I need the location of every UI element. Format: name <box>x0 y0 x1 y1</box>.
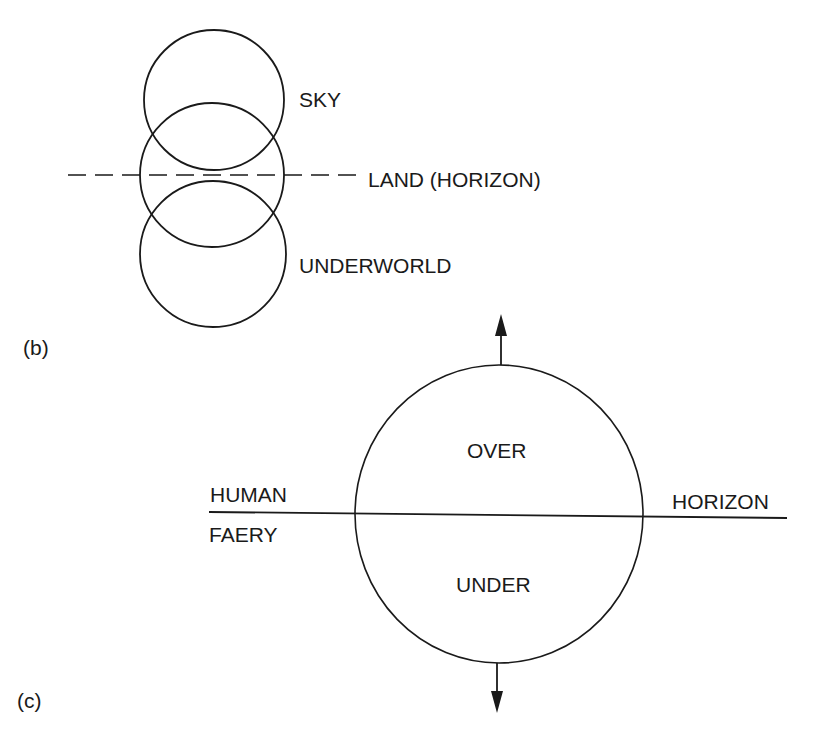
land-horizon-label: LAND (HORIZON) <box>368 168 541 191</box>
up-arrow-icon <box>495 314 507 336</box>
underworld-label: UNDERWORLD <box>299 254 451 277</box>
underworld-circle <box>140 181 286 327</box>
human-label: HUMAN <box>210 483 287 506</box>
sky-label: SKY <box>299 88 341 111</box>
sky-circle <box>144 30 284 170</box>
panel-b: SKY LAND (HORIZON) UNDERWORLD (b) <box>23 30 541 359</box>
diagram-canvas: SKY LAND (HORIZON) UNDERWORLD (b) OVER U… <box>0 0 814 733</box>
panel-c: OVER UNDER HUMAN FAERY HORIZON (c) <box>17 314 787 713</box>
faery-label: FAERY <box>209 523 277 546</box>
over-label: OVER <box>467 439 527 462</box>
panel-b-label: (b) <box>23 336 49 359</box>
horizon-label: HORIZON <box>672 490 769 513</box>
down-arrow-icon <box>491 691 503 713</box>
panel-c-label: (c) <box>17 689 42 712</box>
under-label: UNDER <box>456 573 531 596</box>
